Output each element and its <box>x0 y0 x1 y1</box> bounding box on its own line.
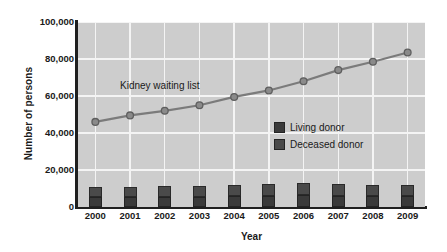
line-marker <box>404 49 411 56</box>
legend-swatch-deceased-donor <box>274 139 285 150</box>
line-marker <box>161 107 168 114</box>
x-tick-label: 2007 <box>328 210 349 221</box>
legend-item-living-donor: Living donor <box>274 120 363 135</box>
x-axis-tick-labels: 2000200120022003200420052006200720082009 <box>78 210 425 226</box>
line-marker <box>370 58 377 65</box>
x-tick-label: 2004 <box>224 210 245 221</box>
line-marker <box>300 78 307 85</box>
legend-swatch-living-donor <box>274 122 285 133</box>
legend-label-living-donor: Living donor <box>290 122 344 133</box>
y-tick-label: 20,000 <box>0 164 74 175</box>
chart-legend: Living donor Deceased donor <box>274 120 363 154</box>
legend-label-deceased-donor: Deceased donor <box>290 139 363 150</box>
line-marker <box>127 112 134 119</box>
line-series-kidney-waiting-list <box>78 22 425 207</box>
y-tick-label: 80,000 <box>0 53 74 64</box>
plot-area: Kidney waiting list Living donor Decease… <box>78 22 425 207</box>
plot-inner <box>78 22 425 207</box>
y-tick-label: 40,000 <box>0 127 74 138</box>
line-marker <box>265 87 272 94</box>
legend-item-deceased-donor: Deceased donor <box>274 137 363 152</box>
y-tick-label: 100,000 <box>0 16 74 27</box>
x-tick-label: 2003 <box>189 210 210 221</box>
line-marker <box>196 102 203 109</box>
x-axis-title: Year <box>78 231 425 242</box>
y-tick-label: 60,000 <box>0 90 74 101</box>
x-tick-label: 2005 <box>258 210 279 221</box>
x-tick-label: 2009 <box>397 210 418 221</box>
y-tick-label: 0 <box>0 201 74 212</box>
line-marker <box>92 119 99 126</box>
annotation-kidney-waiting-list: Kidney waiting list <box>120 80 199 91</box>
x-tick-label: 2006 <box>293 210 314 221</box>
line-marker <box>335 67 342 74</box>
x-tick-label: 2002 <box>154 210 175 221</box>
y-axis-tick-labels: 020,00040,00060,00080,000100,000 <box>0 0 74 252</box>
x-tick-label: 2000 <box>85 210 106 221</box>
chart-figure: Number of persons 020,00040,00060,00080,… <box>0 0 447 252</box>
x-tick-label: 2008 <box>362 210 383 221</box>
line-marker <box>231 94 238 101</box>
x-tick-label: 2001 <box>119 210 140 221</box>
